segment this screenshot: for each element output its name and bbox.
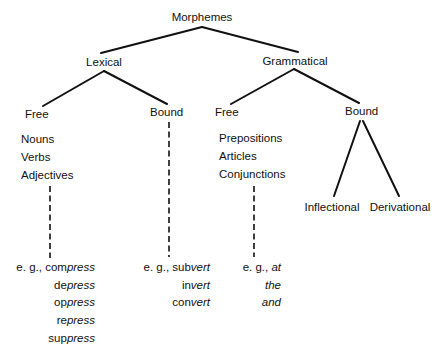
list-item: Adjectives (21, 169, 74, 181)
example-word: convert (172, 296, 211, 308)
example-word: depress (54, 279, 95, 291)
node-morphemes: Morphemes (172, 11, 233, 23)
node-lexical-bound: Bound (150, 106, 183, 118)
edge-lexical-free (43, 71, 104, 106)
list-item: Articles (219, 150, 257, 162)
node-inflectional: Inflectional (305, 201, 360, 213)
example-word: repress (57, 314, 96, 326)
node-derivational: Derivational (370, 201, 431, 213)
edge-bound-derivational (363, 121, 399, 196)
example-word: e. g., at (243, 261, 282, 273)
list-item: Verbs (21, 151, 51, 163)
example-word: and (262, 296, 282, 308)
example-word: suppress (48, 332, 95, 344)
node-lexical-free: Free (25, 108, 49, 120)
examples-lexical-bound: e. g., subvert invert convert (144, 261, 211, 308)
edge-lexical-bound (104, 71, 167, 104)
morpheme-tree-diagram: Morphemes Lexical Grammatical Free Bound… (0, 0, 440, 358)
list-item: Prepositions (219, 132, 283, 144)
tree-nodes: Morphemes Lexical Grammatical Free Bound… (25, 11, 430, 213)
examples-grammatical-free: e. g., at the and (243, 261, 282, 308)
list-item: Conjunctions (219, 168, 286, 180)
example-word: e. g., compress (16, 261, 95, 273)
list-item: Nouns (21, 133, 54, 145)
node-lexical: Lexical (86, 56, 122, 68)
edge-grammatical-bound (294, 69, 359, 103)
node-grammatical: Grammatical (262, 55, 327, 67)
edge-root-lexical (101, 27, 202, 53)
edge-root-grammatical (202, 27, 298, 52)
node-grammatical-bound: Bound (345, 105, 378, 117)
example-word: e. g., subvert (144, 261, 211, 273)
lexical-free-list: Nouns Verbs Adjectives (21, 133, 74, 181)
example-word: oppress (54, 296, 95, 308)
edge-grammatical-free (231, 69, 294, 104)
edge-bound-inflectional (334, 121, 360, 196)
example-word: invert (182, 279, 211, 291)
examples-lexical-free: e. g., compress depress oppress repress … (16, 261, 95, 344)
example-word: the (265, 279, 281, 291)
grammatical-free-list: Prepositions Articles Conjunctions (219, 132, 286, 180)
node-grammatical-free: Free (215, 106, 239, 118)
